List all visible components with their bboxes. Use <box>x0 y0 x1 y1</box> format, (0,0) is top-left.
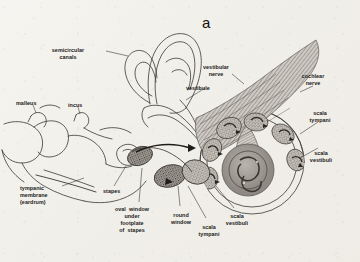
label-oval-window: oval window under footplate of stapes <box>99 206 165 235</box>
label-scala-vestibuli-right: scala vestibuli <box>295 150 347 164</box>
panel-label: a <box>202 14 210 31</box>
label-incus: incus <box>68 102 82 109</box>
window-structures <box>125 143 213 191</box>
label-vestibule: vestibule <box>186 85 210 92</box>
label-stapes: stapes <box>103 188 120 195</box>
vestibule-art <box>142 100 200 142</box>
label-cochlear-nerve: cochlear nerve <box>286 73 340 87</box>
ossicles-art <box>28 112 139 165</box>
label-scala-vestibuli-bottom: scala vestibuli <box>212 213 262 227</box>
label-scala-tympani-right: scala tympani <box>295 110 345 124</box>
label-semicircular-canals: semicircular canals <box>38 47 98 61</box>
label-malleus: malleus <box>16 100 36 107</box>
label-vestibular-nerve: vestibular nerve <box>188 64 244 78</box>
ear-anatomy-figure: a semicircular canals vestibule vestibul… <box>0 0 360 262</box>
label-tympanic-membrane: tympanic membrane (eardrum) <box>20 185 48 206</box>
